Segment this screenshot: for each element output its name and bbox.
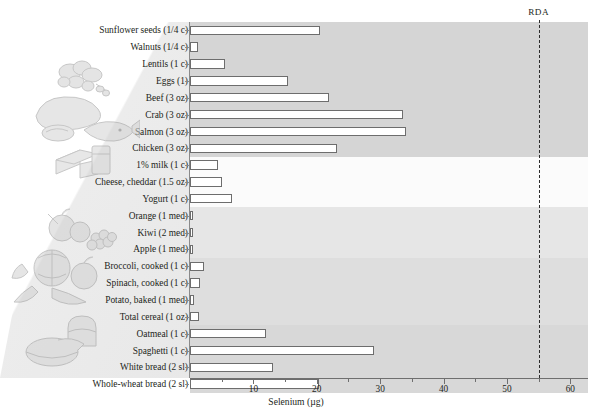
category-label: Walnuts (1/4 c) (0, 42, 188, 52)
band-fruits (190, 207, 588, 258)
bar (190, 363, 273, 372)
bar (190, 194, 232, 203)
category-tick (185, 182, 189, 183)
category-tick (185, 47, 189, 48)
rda-reference-line (539, 20, 540, 378)
axis-tick-label: 50 (502, 384, 511, 394)
rda-label: RDA (528, 7, 549, 17)
axis-tick (190, 378, 191, 384)
axis-tick (285, 378, 286, 382)
bread-cereal-illustration (22, 312, 118, 370)
value-axis-line (190, 378, 588, 379)
category-tick (185, 81, 189, 82)
category-label: Whole-wheat bread (2 sl) (0, 379, 188, 389)
bar (190, 160, 218, 169)
band-vegetables (190, 258, 588, 325)
axis-tick (317, 378, 318, 384)
bar (190, 42, 198, 51)
category-tick (185, 30, 189, 31)
bar (190, 228, 193, 237)
category-tick (185, 300, 189, 301)
category-tick (185, 115, 189, 116)
category-tick (185, 317, 189, 318)
bar (190, 278, 200, 287)
axis-tick (253, 378, 254, 384)
selenium-bar-chart: Sunflower seeds (1/4 c)Walnuts (1/4 c)Le… (0, 0, 592, 417)
category-tick (185, 148, 189, 149)
bar (190, 211, 193, 220)
bar (190, 177, 222, 186)
category-tick (185, 283, 189, 284)
category-tick (185, 367, 189, 368)
bar (190, 295, 194, 304)
axis-tick-label: 10 (249, 384, 258, 394)
category-tick (185, 98, 189, 99)
category-tick (185, 334, 189, 335)
axis-tick (570, 378, 571, 384)
bar (190, 76, 288, 85)
category-tick (185, 132, 189, 133)
category-tick (185, 216, 189, 217)
axis-tick-label: 20 (312, 384, 321, 394)
cheese-milk-illustration (52, 140, 114, 180)
bar (190, 110, 403, 119)
axis-tick (222, 378, 223, 382)
category-tick (185, 165, 189, 166)
axis-tick-label: 30 (376, 384, 385, 394)
category-tick (185, 249, 189, 250)
category-label: Sunflower seeds (1/4 c) (0, 25, 188, 35)
category-tick (185, 233, 189, 234)
axis-tick (348, 378, 349, 382)
category-label: Yogurt (1 c) (0, 194, 188, 204)
bar (190, 262, 204, 271)
poultry-fish-illustration (24, 86, 140, 148)
axis-tick (475, 378, 476, 382)
x-axis-title: Selenium (µg) (0, 396, 592, 407)
axis-tick (444, 378, 445, 384)
bar (190, 127, 406, 136)
bar (190, 59, 225, 68)
category-tick (185, 199, 189, 200)
bar (190, 144, 337, 153)
bar (190, 312, 199, 321)
axis-tick (380, 378, 381, 384)
band-dairy (190, 157, 588, 208)
bar (190, 346, 374, 355)
category-tick (185, 384, 189, 385)
bar (190, 245, 193, 254)
axis-tick (507, 378, 508, 384)
category-tick (185, 64, 189, 65)
band-protein-foods (190, 22, 588, 157)
category-tick (185, 266, 189, 267)
bar (190, 329, 266, 338)
axis-tick-label: 60 (566, 384, 575, 394)
bar (190, 26, 320, 35)
axis-tick (539, 378, 540, 382)
axis-tick-label: 40 (439, 384, 448, 394)
axis-tick (412, 378, 413, 382)
bar (190, 93, 329, 102)
vegetables-illustration (8, 244, 118, 308)
category-tick (185, 351, 189, 352)
